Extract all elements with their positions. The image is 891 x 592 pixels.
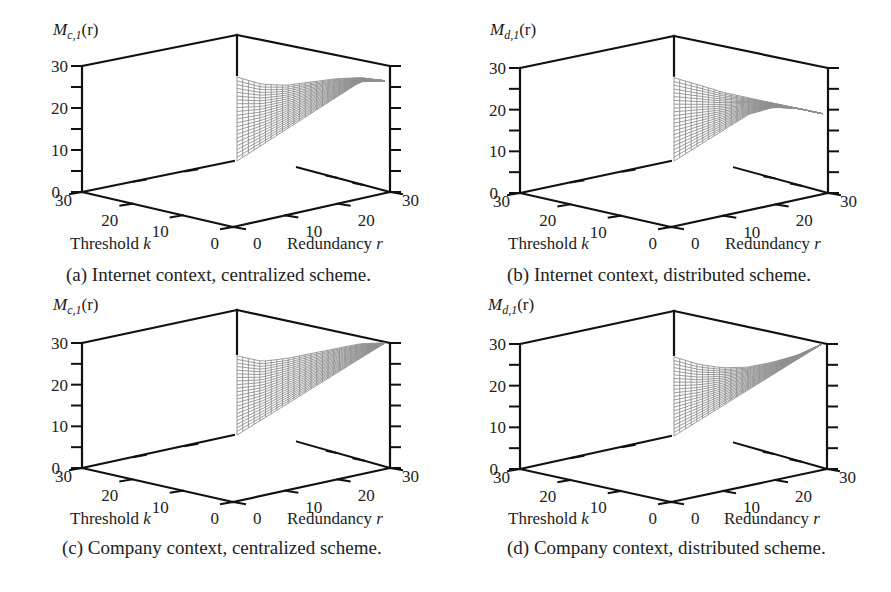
r-back-tick: [764, 452, 774, 454]
r-tick-label: 30: [402, 467, 419, 486]
surface-mesh: [237, 343, 385, 435]
k-tick-label: 30: [493, 192, 510, 211]
r-tick-label: 20: [358, 486, 375, 505]
z-tick-label: 20: [489, 377, 506, 396]
r-tick-label: 0: [253, 234, 262, 253]
r-back-tick: [353, 183, 363, 185]
z-tick-label: 10: [489, 142, 506, 161]
floor-back-left: [82, 161, 234, 192]
z-tick-label: 20: [51, 376, 68, 395]
k-tick: [171, 491, 183, 493]
r-tick-label: 30: [839, 468, 856, 487]
r-tick: [723, 216, 735, 218]
k-back-tick: [571, 180, 583, 182]
z-tick-label: 30: [489, 59, 506, 78]
k-tick: [221, 502, 233, 504]
k-tick: [221, 227, 233, 229]
floor-back-left: [520, 161, 671, 193]
z-tick-label: 20: [489, 101, 506, 120]
k-back-tick: [571, 456, 583, 458]
surface-mesh: [237, 77, 385, 161]
z-tick-label: 10: [51, 141, 68, 160]
floor-back-right: [297, 442, 390, 468]
r-tick: [671, 227, 683, 229]
z-tick-label: 30: [51, 57, 68, 76]
r-back-tick: [790, 459, 800, 461]
box-top-right-edge: [237, 310, 390, 343]
z-tick-label: 10: [51, 417, 68, 436]
threshold-axis-label: Threshold k: [70, 234, 151, 253]
k-tick-label: 0: [649, 509, 658, 528]
redundancy-axis-label: Redundancy r: [287, 509, 383, 528]
r-tick: [233, 227, 245, 229]
k-tick-label: 30: [493, 468, 510, 487]
k-tick: [609, 491, 621, 493]
r-back-tick: [764, 176, 774, 178]
caption: (b) Internet context, distributed scheme…: [507, 264, 811, 286]
r-tick-label: 0: [691, 234, 700, 253]
z-tick-label: 10: [489, 418, 506, 437]
k-tick-label: 20: [101, 211, 118, 230]
box-top-left-edge: [82, 310, 237, 343]
k-tick: [120, 479, 132, 481]
k-tick: [171, 215, 183, 217]
r-back-tick: [791, 184, 801, 186]
k-tick-label: 10: [152, 222, 169, 241]
threshold-axis-label: Threshold k: [508, 509, 589, 528]
z-tick-label: 30: [489, 335, 506, 354]
panel-d: 010203030201000102030Threshold kRedundan…: [445, 296, 890, 592]
z-tick-label: 30: [51, 334, 68, 353]
k-tick: [558, 480, 570, 482]
surface-mesh: [674, 78, 823, 161]
k-tick-label: 20: [539, 211, 556, 230]
r-tick-label: 0: [691, 509, 700, 528]
k-back-tick: [134, 455, 146, 457]
k-tick: [609, 216, 621, 218]
k-tick-label: 0: [211, 509, 220, 528]
z-axis-label: Mc,1(r): [53, 20, 98, 43]
k-tick: [558, 204, 570, 206]
r-tick: [776, 204, 788, 206]
k-tick-label: 30: [55, 467, 72, 486]
panel-c: 010203030201000102030Threshold kRedundan…: [0, 296, 445, 592]
r-back-tick: [353, 458, 363, 460]
panel-b: 010203030201000102030Threshold kRedundan…: [445, 0, 890, 296]
r-tick: [233, 502, 245, 504]
floor-back-left: [82, 435, 234, 468]
k-tick-label: 10: [590, 223, 607, 242]
box-top-right-edge: [237, 35, 390, 66]
k-tick: [120, 204, 132, 206]
box-top-right-edge: [674, 36, 828, 68]
box-top-right-edge: [674, 311, 827, 344]
k-tick: [659, 227, 671, 229]
z-tick-label: 20: [51, 99, 68, 118]
redundancy-axis-label: Redundancy r: [724, 509, 820, 528]
k-tick-label: 0: [211, 234, 220, 253]
threshold-axis-label: Threshold k: [508, 234, 589, 253]
plot-b: 010203030201000102030Threshold kRedundan…: [445, 0, 890, 296]
r-tick: [285, 491, 297, 493]
floor-back-right: [734, 443, 827, 469]
k-tick-label: 0: [649, 234, 658, 253]
r-tick: [285, 215, 297, 217]
surface-mesh: [674, 344, 822, 436]
k-tick-label: 10: [152, 498, 169, 517]
r-back-tick: [327, 176, 337, 178]
r-tick: [338, 479, 350, 481]
r-tick: [775, 480, 787, 482]
z-axis-label: Mc,1(r): [53, 295, 98, 318]
panel-a: 010203030201000102030Threshold kRedundan…: [0, 0, 445, 296]
k-tick: [659, 502, 671, 504]
r-tick-label: 30: [840, 192, 857, 211]
caption: (c) Company context, centralized scheme.: [62, 537, 382, 559]
box-top-left-edge: [520, 36, 674, 68]
z-axis-label: Md,1(r): [490, 20, 536, 43]
z-axis-label: Md,1(r): [488, 295, 534, 318]
floor-back-right: [297, 167, 390, 192]
plot-a: 010203030201000102030Threshold kRedundan…: [0, 0, 445, 296]
k-tick-label: 30: [55, 191, 72, 210]
r-tick-label: 20: [358, 211, 375, 230]
r-tick-label: 30: [402, 191, 419, 210]
threshold-axis-label: Threshold k: [70, 509, 151, 528]
redundancy-axis-label: Redundancy r: [287, 234, 383, 253]
